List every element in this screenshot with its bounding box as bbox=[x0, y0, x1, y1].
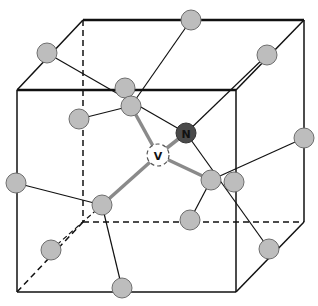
carbon-atom bbox=[180, 210, 200, 230]
nitrogen-atom: N bbox=[176, 123, 196, 143]
carbon-atom bbox=[257, 45, 277, 65]
vacancy-label: V bbox=[154, 150, 163, 163]
carbon-atom bbox=[201, 170, 221, 190]
carbon-atom bbox=[37, 43, 57, 63]
carbon-atom bbox=[224, 172, 244, 192]
carbon-atom bbox=[115, 78, 135, 98]
carbon-atom bbox=[181, 10, 201, 30]
carbon-atom bbox=[92, 195, 112, 215]
nitrogen-label: N bbox=[181, 128, 190, 141]
carbon-atom bbox=[6, 173, 26, 193]
carbon-atom bbox=[121, 96, 141, 116]
nv-center-diagram: N V bbox=[0, 0, 318, 306]
carbon-atom bbox=[294, 128, 314, 148]
carbon-atom bbox=[112, 278, 132, 298]
carbon-atom bbox=[259, 239, 279, 259]
carbon-atom bbox=[69, 109, 89, 129]
vacancy-site: V bbox=[147, 144, 169, 166]
carbon-atom bbox=[41, 240, 61, 260]
lattice-svg: N V bbox=[0, 0, 318, 306]
